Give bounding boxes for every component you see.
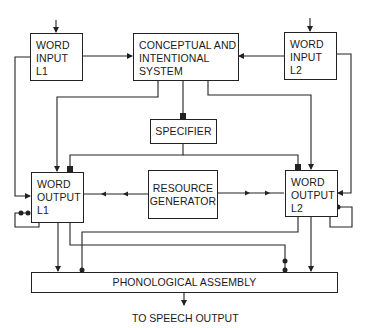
word-input-l2-line3: L2 (290, 64, 336, 77)
word-input-l1-line2: INPUT (36, 52, 82, 65)
conceptual-line3: SYSTEM (139, 65, 238, 78)
word-output-l1-line1: WORD (37, 178, 83, 191)
word-output-l1-line3: L1 (37, 204, 83, 217)
word-output-l2-line2: OUTPUT (291, 189, 337, 202)
word-input-l1-line1: WORD (36, 39, 82, 52)
word-output-l1-line2: OUTPUT (37, 191, 83, 204)
phonological-assembly-label: PHONOLOGICAL ASSEMBLY (113, 276, 257, 289)
resource-generator-line2: GENERATOR (150, 195, 216, 208)
conceptual-intentional-system-box: CONCEPTUAL AND INTENTIONAL SYSTEM (133, 33, 239, 81)
specifier-box: SPECIFIER (150, 119, 217, 144)
conceptual-line2: INTENTIONAL (139, 52, 238, 65)
phonological-assembly-box: PHONOLOGICAL ASSEMBLY (31, 272, 338, 293)
conceptual-line1: CONCEPTUAL AND (139, 39, 238, 52)
word-input-l2-box: WORD INPUT L2 (284, 32, 337, 80)
word-input-l2-line1: WORD (290, 38, 336, 51)
word-output-l2-box: WORD OUTPUT L2 (285, 170, 338, 217)
word-output-l2-line3: L2 (291, 202, 337, 215)
word-input-l2-line2: INPUT (290, 51, 336, 64)
word-output-l1-box: WORD OUTPUT L1 (31, 172, 84, 223)
specifier-label: SPECIFIER (155, 125, 211, 138)
word-input-l1-box: WORD INPUT L1 (30, 33, 83, 81)
word-input-l1-line3: L1 (36, 65, 82, 78)
word-output-l2-line1: WORD (291, 176, 337, 189)
resource-generator-line1: RESOURCE (153, 182, 213, 195)
speech-output-caption: TO SPEECH OUTPUT (132, 312, 239, 324)
resource-generator-box: RESOURCE GENERATOR (148, 170, 218, 219)
